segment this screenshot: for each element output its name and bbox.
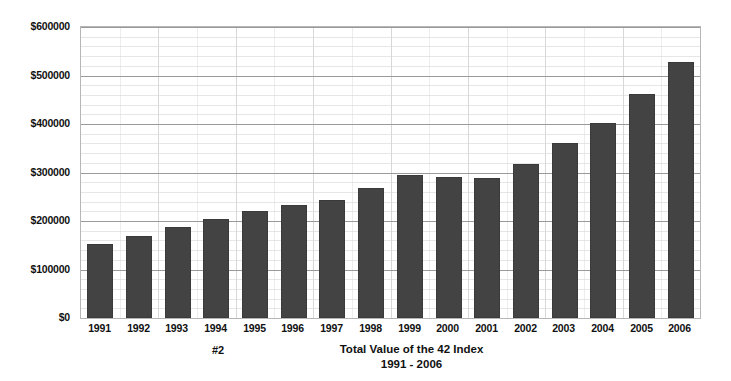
x-tick-label: 2005 — [622, 322, 661, 334]
bar — [629, 94, 655, 318]
chart-subtitle: 1991 - 2006 — [92, 357, 731, 372]
x-tick-label: 1992 — [119, 322, 158, 334]
plot-area — [80, 26, 701, 319]
x-tick-label: 2001 — [467, 322, 506, 334]
x-tick-label: 1991 — [80, 322, 119, 334]
y-tick-label: $400000 — [31, 118, 70, 128]
y-tick-label: $500000 — [31, 70, 70, 80]
x-tick-label: 2004 — [583, 322, 622, 334]
x-tick-label: 2000 — [428, 322, 467, 334]
x-axis: 1991199219931994199519961997199819992000… — [80, 322, 701, 338]
bar — [552, 143, 578, 318]
bar — [281, 205, 307, 318]
chart-annotation-tag: #2 — [212, 344, 224, 356]
x-tick-label: 2003 — [544, 322, 583, 334]
x-tick-label: 1997 — [312, 322, 351, 334]
bar — [126, 236, 152, 318]
bar — [397, 175, 423, 318]
bar — [474, 178, 500, 318]
x-tick-label: 1995 — [235, 322, 274, 334]
bar — [590, 123, 616, 318]
x-tick-label: 2002 — [506, 322, 545, 334]
bar — [203, 219, 229, 318]
chart-title-block: Total Value of the 42 Index 1991 - 2006 — [0, 342, 731, 372]
chart-title: Total Value of the 42 Index — [92, 342, 731, 357]
x-tick-label: 1998 — [351, 322, 390, 334]
y-tick-label: $300000 — [31, 167, 70, 177]
bar — [668, 62, 694, 318]
x-tick-label: 2006 — [660, 322, 699, 334]
y-tick-label: $200000 — [31, 215, 70, 225]
bar — [319, 200, 345, 318]
x-tick-label: 1994 — [196, 322, 235, 334]
y-tick-label: $0 — [59, 312, 70, 322]
bar — [87, 244, 113, 318]
bar — [436, 177, 462, 318]
bar — [513, 164, 539, 318]
x-tick-label: 1999 — [390, 322, 429, 334]
bar-chart: $0$100000$200000$300000$400000$500000$60… — [0, 0, 731, 381]
x-tick-label: 1993 — [157, 322, 196, 334]
y-tick-label: $100000 — [31, 264, 70, 274]
bar — [165, 227, 191, 318]
y-tick-label: $600000 — [31, 21, 70, 31]
bar — [242, 211, 268, 318]
y-axis: $0$100000$200000$300000$400000$500000$60… — [0, 0, 78, 381]
bars-layer — [81, 27, 700, 318]
x-tick-label: 1996 — [273, 322, 312, 334]
bar — [358, 188, 384, 318]
